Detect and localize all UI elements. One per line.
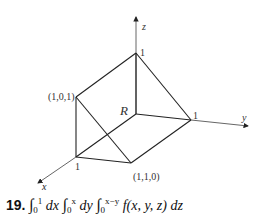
int1-diff: dx xyxy=(46,198,59,213)
z-top-label: 1 xyxy=(140,48,145,58)
int2-diff: dy xyxy=(79,198,92,213)
stray-x-mark: x xyxy=(42,181,46,192)
integrand: f(x, y, z) xyxy=(123,198,167,213)
y-axis xyxy=(191,120,248,126)
region-label: R xyxy=(120,104,128,117)
z-axis-label: z xyxy=(142,22,146,32)
int3-lower: 0 xyxy=(101,205,106,215)
int1-upper: 1 xyxy=(38,196,43,206)
x-axis xyxy=(38,157,76,183)
int3-diff: dz xyxy=(170,198,182,213)
point-101-label: (1,0,1) xyxy=(48,92,75,102)
int3-upper: x−y xyxy=(105,196,119,206)
y-axis-label: y xyxy=(242,113,246,123)
point-110-label: (1,1,0) xyxy=(133,172,160,182)
y-one-label: 1 xyxy=(193,111,198,121)
solid-region-diagram xyxy=(0,0,257,218)
int2-upper: x xyxy=(71,196,76,206)
x-one-label: 1 xyxy=(75,162,80,172)
problem-statement: 19. ∫01 dx ∫0x dy ∫0x−y f(x, y, z) dz xyxy=(6,193,183,218)
int2-lower: 0 xyxy=(67,205,72,215)
problem-number: 19. xyxy=(6,197,25,213)
int1-lower: 0 xyxy=(33,205,38,215)
